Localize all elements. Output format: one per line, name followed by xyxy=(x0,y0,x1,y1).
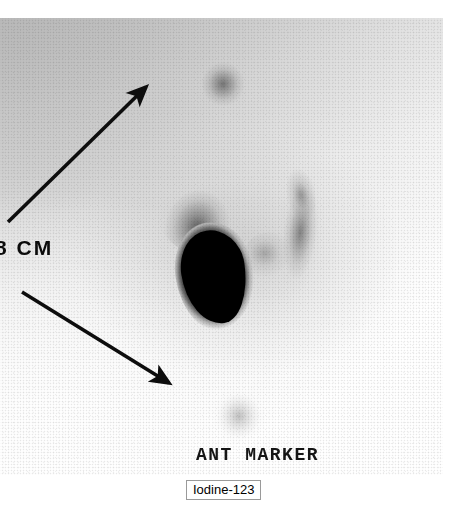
scale-distance-label: 8 CM xyxy=(0,236,53,260)
scintigraphy-scan-image xyxy=(0,18,443,475)
film-grain-noise xyxy=(0,18,443,475)
figure-page: 8 CM ANT MARKER Iodine-123 xyxy=(0,0,463,512)
ant-marker-label: ANT MARKER xyxy=(196,445,319,465)
figure-caption-chip: Iodine-123 xyxy=(186,480,261,500)
